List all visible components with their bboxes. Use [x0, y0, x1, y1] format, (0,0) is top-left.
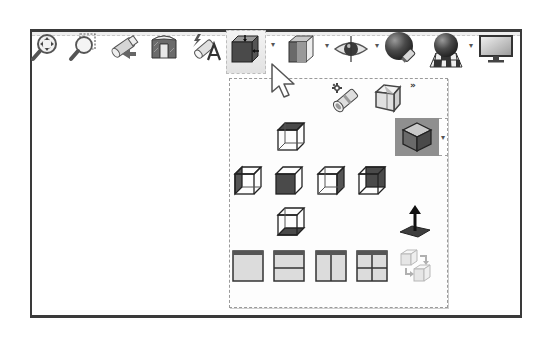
eye-icon[interactable] — [333, 36, 369, 62]
display-style-dropdown-arrow[interactable]: ▾ — [324, 43, 330, 49]
view-orientation-icon[interactable] — [229, 33, 261, 65]
left-view-icon[interactable] — [232, 164, 264, 198]
hide-show-dropdown-arrow[interactable]: ▾ — [374, 43, 380, 49]
front-view-icon[interactable] — [273, 164, 305, 198]
link-views-icon — [398, 248, 432, 284]
two-view-horizontal-icon[interactable] — [273, 250, 305, 282]
normal-to-icon[interactable] — [398, 204, 432, 240]
3d-view-cube-icon[interactable] — [372, 82, 404, 114]
display-style-icon[interactable] — [285, 34, 317, 64]
back-view-icon[interactable] — [356, 164, 388, 198]
previous-view-icon[interactable] — [108, 32, 140, 62]
right-view-icon[interactable] — [315, 164, 347, 198]
view-orientation-dropdown-arrow[interactable]: ▾ — [270, 42, 276, 48]
mouse-pointer-icon — [270, 62, 300, 100]
zoom-to-fit-icon[interactable] — [30, 32, 60, 62]
appearance-sphere-icon[interactable] — [383, 31, 419, 67]
zoom-to-area-icon[interactable] — [68, 32, 98, 62]
isometric-dropdown-arrow[interactable]: ▾ — [440, 135, 446, 141]
dynamic-annotation-icon[interactable] — [188, 32, 222, 62]
section-view-icon[interactable] — [148, 32, 180, 62]
scene-icon[interactable] — [428, 31, 464, 69]
single-viewport-icon[interactable] — [232, 250, 264, 282]
bottom-view-icon[interactable] — [275, 205, 307, 239]
two-view-vertical-icon[interactable] — [315, 250, 347, 282]
scene-dropdown-arrow[interactable]: ▾ — [468, 43, 474, 49]
camera-icon[interactable] — [330, 82, 362, 114]
four-view-icon[interactable] — [356, 250, 388, 282]
top-view-icon[interactable] — [275, 120, 307, 154]
more-items-chevron[interactable]: » — [410, 80, 416, 90]
isometric-dropdown[interactable]: ▾ — [439, 118, 448, 156]
monitor-icon[interactable] — [478, 34, 514, 64]
isometric-view-icon[interactable] — [400, 121, 434, 153]
